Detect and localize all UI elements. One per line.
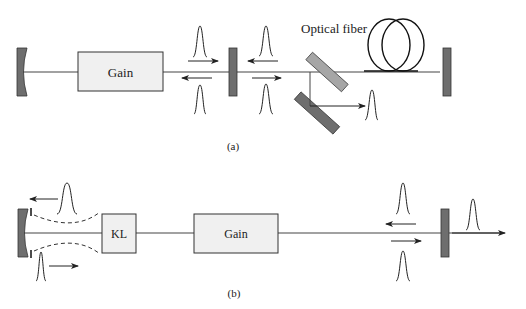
- pulse-icon: [57, 183, 77, 214]
- output-coupler-icon: [229, 48, 237, 96]
- optical-fiber-label: Optical fiber: [301, 21, 368, 36]
- pulse-icon: [396, 251, 410, 281]
- fiber-coil-icon: [364, 19, 424, 71]
- pulse-icon: [36, 252, 46, 281]
- pulse-icon: [193, 26, 207, 57]
- output-coupler-icon: [441, 209, 449, 257]
- panel-a: Gain Optical fiber: [17, 19, 451, 153]
- pulse-icon: [466, 199, 480, 230]
- flat-mirror-icon: [443, 48, 451, 96]
- beam-envelope-top: [34, 212, 100, 223]
- pulse-icon: [365, 90, 378, 120]
- gain-label: Gain: [108, 65, 134, 80]
- gain-label: Gain: [224, 227, 247, 241]
- kl-label: KL: [111, 227, 127, 241]
- pulse-icon: [259, 26, 273, 56]
- caption-b: (b): [228, 287, 241, 300]
- laser-cavity-diagram: Gain Optical fiber: [0, 0, 526, 309]
- pulse-icon: [194, 85, 206, 114]
- beam-splitter-lower-icon: [294, 92, 339, 134]
- beam-envelope-bottom: [34, 243, 100, 254]
- pulse-icon: [259, 84, 273, 114]
- caption-a: (a): [227, 140, 240, 153]
- panel-b: KL Gain (b): [18, 183, 505, 300]
- pulse-icon: [396, 183, 410, 214]
